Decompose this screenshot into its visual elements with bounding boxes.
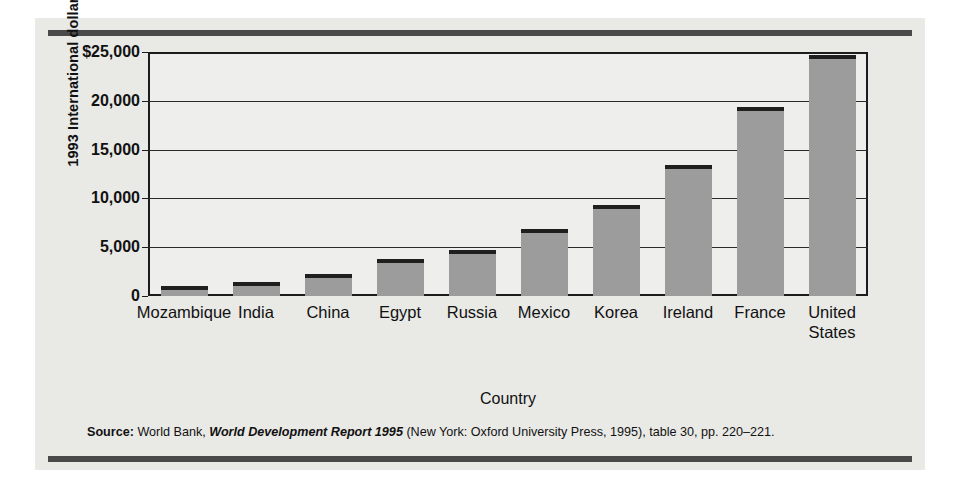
x-axis-title: Country [148, 390, 868, 408]
x-axis-tick-label: India [238, 302, 274, 322]
plot-area: 05,00010,00015,00020,000$25,000 Mozambiq… [148, 52, 868, 296]
bar [161, 286, 208, 296]
x-axis-tick-label: Korea [594, 302, 638, 322]
x-axis-tick-label: France [734, 302, 785, 322]
x-axis-tick-label: Russia [447, 302, 497, 322]
bar [305, 274, 352, 296]
y-axis-tick-mark [142, 247, 148, 248]
bar [809, 55, 856, 296]
source-note: Source: World Bank, World Development Re… [87, 424, 907, 440]
bar [737, 107, 784, 296]
gridline [148, 101, 868, 102]
y-axis-tick-label: 20,000 [91, 92, 140, 110]
y-axis-tick-mark [142, 296, 148, 297]
x-axis-tick-label: Mozambique [137, 302, 231, 322]
x-axis-tick-label: Egypt [379, 302, 421, 322]
x-axis-tick-label: Ireland [663, 302, 713, 322]
y-axis-tick-label: 10,000 [91, 189, 140, 207]
source-publisher: World Bank, [137, 425, 205, 439]
bar [593, 205, 640, 296]
y-axis-tick-label: $25,000 [82, 43, 140, 61]
x-axis-tick-label: Mexico [518, 302, 570, 322]
bottom-rule [48, 456, 912, 462]
y-axis-tick-mark [142, 101, 148, 102]
figure-panel: 1993 International dollars 05,00010,0001… [35, 18, 925, 470]
bar [665, 165, 712, 296]
source-label: Source: [87, 425, 134, 439]
y-axis-tick-mark [142, 52, 148, 53]
x-axis-tick-label: United States [808, 302, 856, 342]
y-axis-title: 1993 International dollars [65, 0, 81, 178]
bar [449, 250, 496, 296]
source-title: World Development Report 1995 [209, 425, 403, 439]
source-rest: (New York: Oxford University Press, 1995… [406, 425, 774, 439]
y-axis-tick-label: 5,000 [100, 238, 140, 256]
y-axis-tick-mark [142, 198, 148, 199]
y-axis-tick-label: 15,000 [91, 141, 140, 159]
bar [521, 229, 568, 296]
bar [377, 259, 424, 296]
y-axis-tick-mark [142, 150, 148, 151]
bar [233, 282, 280, 296]
x-axis-tick-label: China [306, 302, 349, 322]
top-rule [48, 30, 912, 36]
